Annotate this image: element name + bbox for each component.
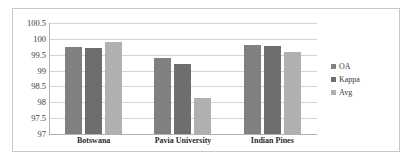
bar [174, 64, 191, 134]
x-axis-category-label: Pavia University [138, 137, 227, 146]
legend-swatch-icon [331, 64, 336, 69]
bar [194, 98, 211, 134]
bar [264, 46, 281, 134]
y-axis-tick-label: 98.5 [12, 82, 46, 91]
legend-item[interactable]: OA [331, 61, 395, 72]
bar-group [49, 23, 138, 134]
y-axis-tick-labels: 100.510099.59998.59897.597 [13, 23, 46, 134]
plot-area [49, 23, 317, 134]
bar [244, 45, 261, 134]
x-axis-category-label: Indian Pines [228, 137, 317, 146]
legend-swatch-icon [331, 77, 336, 82]
bar [105, 42, 122, 134]
bar [65, 47, 82, 134]
legend-item-label: Avg [339, 89, 352, 97]
bar-group [138, 23, 227, 134]
y-axis-tick-label: 99.5 [12, 50, 46, 59]
bar [85, 48, 102, 134]
legend-item-label: Kappa [339, 76, 360, 84]
legend-item-label: OA [339, 63, 351, 71]
bars-layer [49, 23, 317, 134]
bar-group [228, 23, 317, 134]
x-axis-category-label: Botswana [49, 137, 138, 146]
y-axis-tick-label: 98 [12, 98, 46, 107]
y-axis-tick-label: 100 [12, 35, 46, 44]
legend-swatch-icon [331, 90, 336, 95]
y-axis-tick-label: 97.5 [12, 114, 46, 123]
y-axis-tick-label: 99 [12, 66, 46, 75]
y-axis-tick-label: 97 [12, 130, 46, 139]
bar [154, 58, 171, 134]
x-axis-category-labels: BotswanaPavia UniversityIndian Pines [49, 137, 317, 151]
chart-container: 100.510099.59998.59897.597 BotswanaPavia… [12, 8, 400, 152]
gridline [49, 134, 317, 135]
chart-legend: OAKappaAvg [331, 61, 395, 100]
bar [284, 52, 301, 134]
legend-item[interactable]: Avg [331, 87, 395, 98]
legend-item[interactable]: Kappa [331, 74, 395, 85]
y-axis-tick-label: 100.5 [12, 19, 46, 28]
